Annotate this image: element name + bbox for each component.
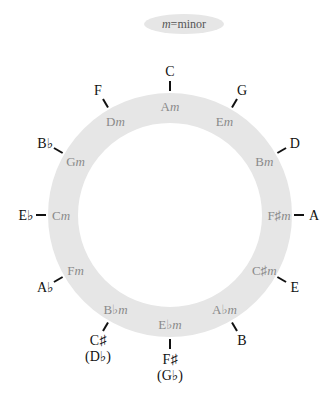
circle-of-fifths-diagram: m=minor AmEmBmF♯mC♯mA♭mE♭mB♭mFmCmGmDm CG… [0, 0, 327, 401]
minor-key-label: Em [216, 114, 233, 129]
minor-key-label: Bm [255, 154, 273, 169]
minor-key-label: Dm [106, 114, 125, 129]
minor-key-label: B♭m [103, 302, 127, 317]
tick-mark [277, 277, 286, 282]
minor-key-label: F♯m [267, 208, 290, 223]
major-key-label: F [94, 83, 102, 98]
minor-key-label: A♭m [212, 302, 237, 317]
minor-key-label: C♯m [252, 263, 277, 278]
tick-mark [232, 99, 237, 108]
tick-mark [54, 277, 63, 282]
legend-label: m=minor [162, 17, 206, 31]
major-key-label: A♭ [37, 280, 54, 295]
minor-key-label: Am [161, 99, 180, 114]
tick-mark [54, 148, 63, 153]
major-key-label: F♯ [163, 352, 179, 367]
minor-key-label: E♭m [158, 317, 181, 332]
tick-mark [277, 148, 286, 153]
major-key-label: C♯ [90, 333, 107, 348]
major-key-alt-label: (D♭) [85, 349, 111, 365]
major-key-label: B♭ [37, 136, 53, 151]
major-key-alt-label: (G♭) [157, 368, 183, 384]
minor-key-label: Cm [52, 208, 70, 223]
major-key-label: E [290, 280, 299, 295]
key-ring [63, 108, 277, 322]
minor-key-label: Gm [66, 154, 85, 169]
major-key-label: G [237, 83, 247, 98]
legend: m=minor [144, 14, 224, 34]
tick-mark [103, 322, 108, 331]
major-key-label: B [237, 333, 246, 348]
tick-mark [103, 99, 108, 108]
major-key-label: D [290, 136, 300, 151]
major-key-label: A [309, 208, 320, 223]
tick-mark [232, 322, 237, 331]
major-key-label: C [165, 64, 174, 79]
minor-key-label: Fm [67, 263, 84, 278]
major-key-label: E♭ [18, 208, 33, 223]
